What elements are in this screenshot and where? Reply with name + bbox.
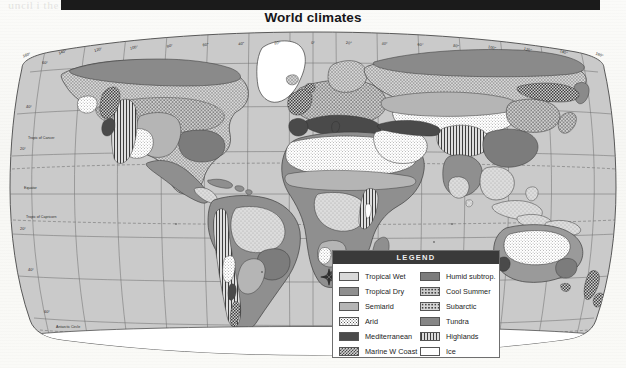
legend-swatch (339, 332, 359, 341)
legend-item: Cool Summer (420, 284, 499, 298)
legend-item: Semiarid (339, 299, 418, 313)
legend-item: Tundra (420, 314, 499, 328)
legend-item-label: Subarctic (446, 302, 476, 311)
legend-swatch (420, 332, 440, 341)
legend-item: Highlands (420, 329, 499, 343)
landmass-antarctica (34, 327, 596, 359)
legend-header: LEGEND (333, 251, 499, 264)
latitude-special-label: Tropic of Cancer (28, 136, 55, 140)
legend-item-label: Mediterranean (365, 332, 412, 341)
legend-body: Tropical WetTropical DrySemiaridAridMedi… (333, 264, 499, 358)
longitude-label: 160° (22, 51, 32, 59)
legend-swatch (420, 272, 440, 281)
legend-column-right: Humid subtrop.Cool SummerSubarcticTundra… (418, 269, 499, 358)
legend-swatch (339, 272, 359, 281)
legend-item: Humid subtrop. (420, 269, 499, 283)
longitude-label: 160° (595, 51, 605, 59)
legend-swatch (339, 317, 359, 326)
legend-swatch (420, 287, 440, 296)
page-title: World climates (0, 10, 626, 25)
legend-swatch (420, 347, 440, 356)
legend-item-label: Marine W Coast (365, 347, 417, 356)
longitude-label: 60° (202, 41, 209, 47)
legend-item-label: Tropical Dry (365, 287, 404, 296)
legend-item: Mediterranean (339, 329, 418, 343)
longitude-label: 60° (417, 42, 424, 48)
legend-item-label: Humid subtrop. (446, 272, 495, 281)
world-climate-map: 160°140°120°100°80°60°40°20°0°20°40°60°8… (0, 28, 626, 360)
redaction-bar (61, 0, 600, 10)
legend-item: Marine W Coast (339, 344, 418, 358)
legend-item-label: Arid (365, 317, 378, 326)
legend-item: Arid (339, 314, 418, 328)
legend-swatch (420, 317, 440, 326)
latitude-special-label: Equator (24, 186, 37, 190)
legend-item: Ice (420, 344, 499, 358)
latitude-label: 20° (20, 146, 26, 151)
longitude-label: 20° (346, 40, 353, 45)
legend-item: Tropical Wet (339, 269, 418, 283)
legend-swatch (420, 302, 440, 311)
legend-swatch (339, 302, 359, 311)
longitude-label: 40° (381, 41, 388, 47)
longitude-label: 0° (311, 40, 315, 45)
legend-item-label: Tropical Wet (365, 272, 406, 281)
map-svg: 160°140°120°100°80°60°40°20°0°20°40°60°8… (0, 28, 626, 360)
legend-column-left: Tropical WetTropical DrySemiaridAridMedi… (333, 269, 418, 358)
latitude-label: 60° (42, 60, 48, 65)
latitude-special-label: Tropic of Capricorn (26, 215, 56, 219)
latitude-special-label: Antarctic Circle (56, 325, 80, 329)
longitude-label: 40° (238, 41, 245, 47)
latitude-label: 60° (44, 309, 50, 314)
legend-item-label: Semiarid (365, 302, 394, 311)
legend-item: Subarctic (420, 299, 499, 313)
legend-item-label: Ice (446, 347, 456, 356)
legend-item-label: Tundra (446, 317, 469, 326)
latitude-label: 40° (28, 267, 34, 272)
legend-item-label: Highlands (446, 332, 478, 341)
legend-item-label: Cool Summer (446, 287, 491, 296)
legend-swatch (339, 347, 359, 356)
latitude-label: 40° (26, 104, 32, 109)
latitude-label: 20° (20, 226, 26, 231)
longitude-label: 20° (274, 40, 281, 45)
legend-item: Tropical Dry (339, 284, 418, 298)
legend-swatch (339, 287, 359, 296)
legend-box: LEGEND Tropical WetTropical DrySemiaridA… (332, 250, 500, 358)
